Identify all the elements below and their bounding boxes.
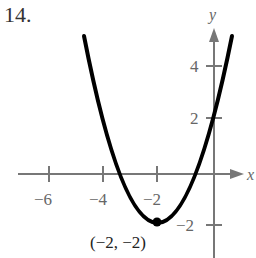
- x-axis-arrow-icon: [230, 169, 244, 179]
- y-axis-arrow-icon: [209, 28, 219, 42]
- y-tick-label: −2: [176, 216, 194, 235]
- y-tick-label: 2: [190, 109, 199, 128]
- vertex-point: [153, 218, 162, 227]
- x-tick-label: −6: [34, 190, 52, 209]
- x-axis-label: x: [246, 166, 254, 183]
- y-tick-label: 4: [190, 57, 199, 76]
- vertex-label: (−2, −2): [90, 233, 146, 252]
- x-tick-label: −2: [143, 190, 161, 209]
- y-axis-label: y: [207, 6, 217, 24]
- x-tick-label: −4: [89, 190, 108, 209]
- graph: x y −6 −4 −2 4 2 −2 (−2, −2): [0, 0, 256, 258]
